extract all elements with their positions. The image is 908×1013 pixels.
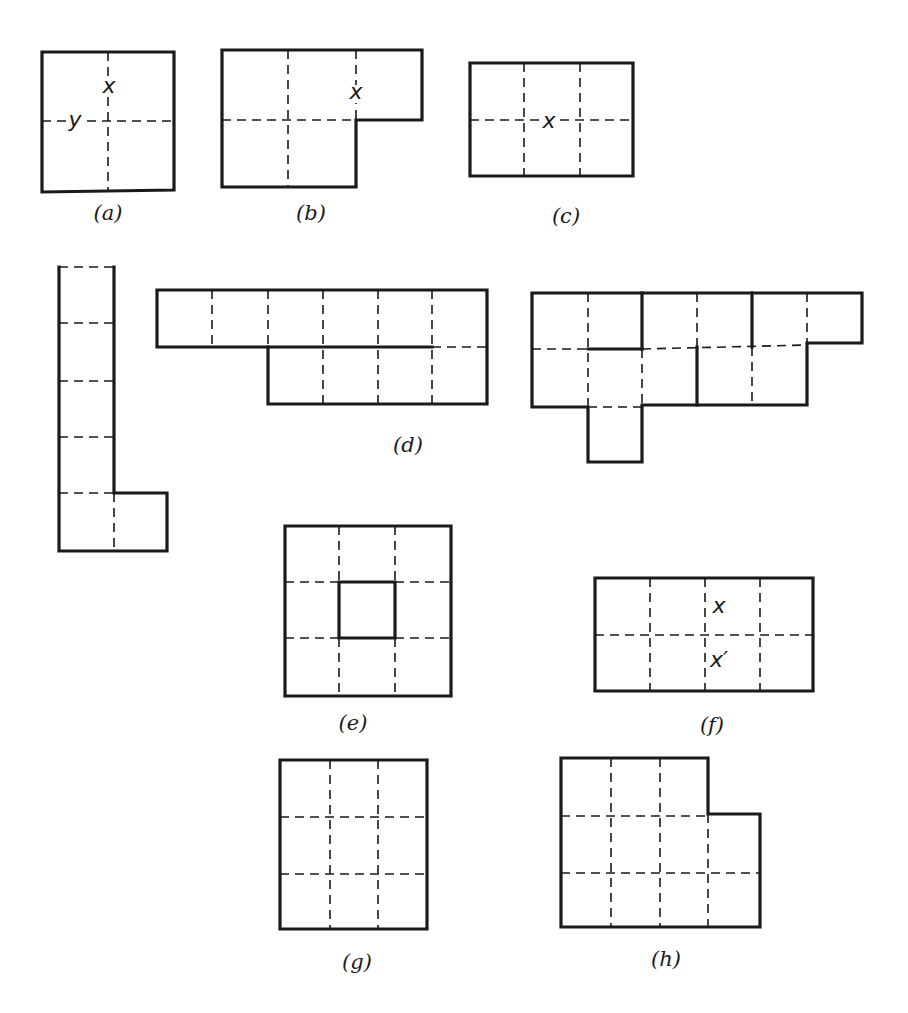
- figure-b: x(b): [222, 50, 422, 225]
- figure-caption: (e): [339, 711, 368, 735]
- outline-solid-line: [222, 50, 422, 187]
- figure-caption: (h): [651, 947, 681, 971]
- figure-d-left: [59, 267, 167, 551]
- variable-label: x: [348, 79, 363, 104]
- outline-solid-line: [339, 582, 395, 638]
- variable-label: x: [711, 593, 726, 618]
- variable-label: y: [67, 107, 82, 132]
- grid-dashed-line: [642, 345, 807, 349]
- figure-a: xy(a): [42, 52, 174, 225]
- figure-e: (e): [285, 526, 451, 735]
- outline-solid-line: [59, 267, 167, 551]
- figure-d-middle: (d): [157, 290, 487, 457]
- variable-label: x: [541, 108, 556, 133]
- figure-caption: (b): [296, 201, 326, 225]
- variable-label: x: [101, 73, 116, 98]
- outline-solid-line: [285, 526, 451, 696]
- figure-g: (g): [280, 760, 427, 974]
- figure-caption: (g): [342, 950, 372, 974]
- figure-c: x(c): [470, 63, 633, 228]
- figure-caption: (f): [700, 713, 724, 737]
- diagram-canvas: xy(a)x(b)x(c)(d)(e)xx′(f)(g)(h): [0, 0, 908, 1013]
- outline-solid-line: [280, 760, 427, 929]
- figure-caption: (c): [552, 204, 580, 228]
- figures-layer: xy(a)x(b)x(c)(d)(e)xx′(f)(g)(h): [42, 50, 862, 974]
- figure-h: (h): [561, 758, 760, 971]
- figure-caption: (d): [393, 433, 423, 457]
- variable-label: x′: [709, 647, 728, 672]
- figure-d-right: [532, 293, 862, 462]
- figure-f: xx′(f): [595, 578, 813, 737]
- figure-caption: (a): [94, 201, 123, 225]
